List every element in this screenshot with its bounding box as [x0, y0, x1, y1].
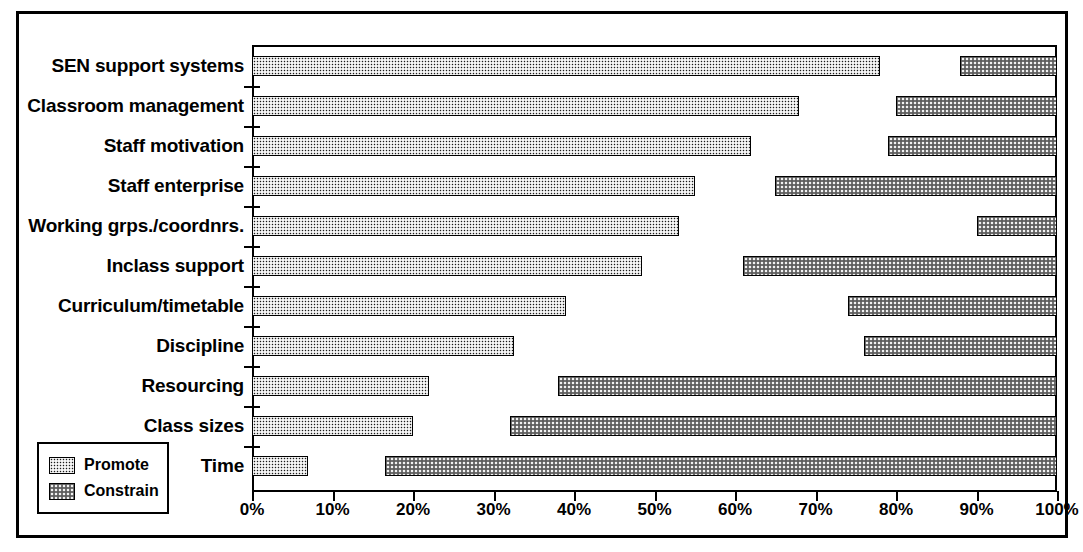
y-axis-label: Curriculum/timetable [4, 286, 244, 326]
legend-swatch-constrain [49, 483, 75, 500]
bar-row [252, 326, 1057, 366]
x-axis-tick-label: 70% [776, 500, 856, 520]
y-axis-label: Working grps./coordnrs. [4, 206, 244, 246]
y-axis-tick [244, 86, 260, 88]
bar-row [252, 446, 1057, 486]
y-axis-label: Resourcing [4, 366, 244, 406]
y-axis-category-labels: SEN support systemsClassroom managementS… [19, 45, 244, 492]
y-axis-tick [244, 126, 260, 128]
y-axis-label: Class sizes [4, 406, 244, 446]
bar-row [252, 406, 1057, 446]
bar-row [252, 366, 1057, 406]
bar-row [252, 206, 1057, 246]
legend-swatch-promote [49, 457, 75, 474]
bar-row [252, 286, 1057, 326]
bar-constrain [960, 56, 1057, 76]
y-axis-tick [244, 246, 260, 248]
bar-promote [252, 376, 429, 396]
y-axis-label: Staff motivation [4, 126, 244, 166]
bar-constrain [385, 456, 1057, 476]
bar-promote [252, 136, 751, 156]
y-axis-tick [244, 166, 260, 168]
bar-promote [252, 296, 566, 316]
legend-label: Promote [84, 456, 149, 474]
x-axis-tick-label: 30% [454, 500, 534, 520]
bar-promote [252, 176, 695, 196]
bar-promote [252, 456, 308, 476]
legend-item: Promote [49, 452, 167, 478]
bar-promote [252, 416, 413, 436]
bar-row [252, 46, 1057, 86]
bar-constrain [977, 216, 1058, 236]
y-axis-label: Staff enterprise [4, 166, 244, 206]
y-axis-tick [244, 326, 260, 328]
bar-constrain [510, 416, 1057, 436]
legend: PromoteConstrain [37, 442, 169, 514]
x-axis-tick-label: 50% [615, 500, 695, 520]
y-axis-tick [244, 206, 260, 208]
bar-constrain [848, 296, 1057, 316]
legend-item: Constrain [49, 478, 167, 504]
y-axis-label: Discipline [4, 326, 244, 366]
bar-row [252, 246, 1057, 286]
y-axis-tick [244, 366, 260, 368]
x-axis-tick-label: 80% [856, 500, 936, 520]
y-axis-label: SEN support systems [4, 46, 244, 86]
y-axis-label: Inclass support [4, 246, 244, 286]
bar-constrain [864, 336, 1057, 356]
x-axis-tick-label: 0% [212, 500, 292, 520]
plot-area: 0%10%20%30%40%50%60%70%80%90%100% [252, 45, 1057, 492]
bar-promote [252, 256, 642, 276]
bar-row [252, 126, 1057, 166]
x-axis-tick-label: 90% [937, 500, 1017, 520]
y-axis-label: Classroom management [4, 86, 244, 126]
bar-promote [252, 96, 799, 116]
y-axis-tick [244, 286, 260, 288]
bar-promote [252, 56, 880, 76]
bar-promote [252, 216, 679, 236]
legend-label: Constrain [84, 482, 159, 500]
x-axis-tick-label: 20% [373, 500, 453, 520]
x-axis-tick-label: 10% [293, 500, 373, 520]
bar-promote [252, 336, 514, 356]
x-axis-tick-label: 40% [534, 500, 614, 520]
bar-constrain [775, 176, 1057, 196]
bar-constrain [558, 376, 1057, 396]
bar-row [252, 166, 1057, 206]
bar-constrain [888, 136, 1057, 156]
bar-row [252, 86, 1057, 126]
y-axis-tick [244, 446, 260, 448]
chart-frame: SEN support systemsClassroom managementS… [16, 11, 1068, 538]
x-axis-tick-label: 100% [1017, 500, 1083, 520]
y-axis-tick [244, 406, 260, 408]
bar-constrain [896, 96, 1057, 116]
bar-constrain [743, 256, 1057, 276]
x-axis-tick-label: 60% [695, 500, 775, 520]
